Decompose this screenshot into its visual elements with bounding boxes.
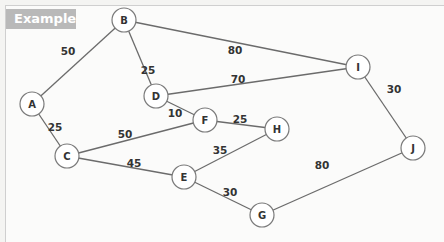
node-E: E [172, 165, 196, 189]
edge-A-B [32, 20, 124, 104]
node-G: G [250, 203, 274, 227]
edge-weight-A-C: 25 [48, 121, 63, 133]
node-label: I [356, 62, 360, 73]
edge-weight-C-E: 45 [127, 157, 142, 169]
node-label: E [181, 172, 188, 183]
edge-weight-I-J: 30 [387, 83, 402, 95]
edge-weight-D-I: 70 [231, 73, 246, 85]
edge-weight-B-I: 80 [228, 44, 243, 56]
edge-weight-A-B: 50 [61, 45, 76, 57]
node-label: H [273, 124, 281, 135]
node-label: G [258, 210, 266, 221]
node-label: J [410, 143, 415, 154]
edge-D-I [156, 67, 358, 96]
node-label: F [202, 115, 209, 126]
edge-weight-B-D: 25 [141, 64, 156, 76]
edge-weight-G-J: 80 [315, 159, 330, 171]
edge-weight-C-F: 50 [118, 128, 133, 140]
edge-weight-E-H: 35 [213, 144, 228, 156]
node-C: C [55, 144, 79, 168]
node-J: J [401, 136, 425, 160]
node-F: F [193, 108, 217, 132]
node-label: D [152, 91, 160, 102]
node-H: H [265, 117, 289, 141]
node-I: I [346, 55, 370, 79]
node-label: C [63, 151, 70, 162]
edges-layer: 50252580701050254535308030 [32, 20, 413, 215]
edge-weight-E-G: 30 [223, 186, 238, 198]
node-label: B [120, 15, 128, 26]
edge-weight-D-F: 10 [168, 107, 183, 119]
edge-C-F [67, 120, 205, 156]
edge-I-J [358, 67, 413, 148]
edge-G-J [262, 148, 413, 215]
edge-C-E [67, 156, 184, 177]
edge-weight-F-H: 25 [233, 113, 248, 125]
node-A: A [20, 92, 44, 116]
node-D: D [144, 84, 168, 108]
node-B: B [112, 8, 136, 32]
node-label: A [28, 99, 36, 110]
edge-E-H [184, 129, 277, 177]
